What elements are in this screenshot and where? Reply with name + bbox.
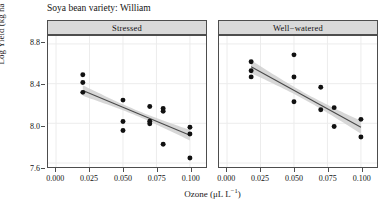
- x-tick-mark: [362, 168, 363, 172]
- x-tick-label-0.075: 0.075: [148, 174, 166, 183]
- x-tick-label-0.000: 0.000: [217, 174, 235, 183]
- x-tick-mark: [328, 168, 329, 172]
- x-tick-mark: [55, 168, 56, 172]
- x-tick-mark: [226, 168, 227, 172]
- x-tick-label-0.100: 0.100: [353, 174, 371, 183]
- x-tick-mark: [191, 168, 192, 172]
- x-tick-label-0.000: 0.000: [46, 174, 64, 183]
- x-tick-mark: [89, 168, 90, 172]
- x-axis-label: Ozone (μL L−1): [47, 189, 378, 199]
- x-tick-mark: [123, 168, 124, 172]
- x-tick-mark: [157, 168, 158, 172]
- x-tick-label-0.075: 0.075: [319, 174, 337, 183]
- x-tick-mark: [294, 168, 295, 172]
- x-tick-label-0.100: 0.100: [182, 174, 200, 183]
- x-tick-mark: [260, 168, 261, 172]
- x-tick-label-0.050: 0.050: [285, 174, 303, 183]
- x-axis-label-text: Ozone (μL L−1): [184, 189, 240, 199]
- x-tick-label-0.025: 0.025: [80, 174, 98, 183]
- x-tick-label-0.025: 0.025: [251, 174, 269, 183]
- chart-root: Soya bean variety: William Log Yield (kg…: [0, 0, 384, 206]
- x-axis-ticks: 0.0000.0250.0500.0750.1000.0000.0250.050…: [0, 0, 384, 206]
- x-tick-label-0.050: 0.050: [114, 174, 132, 183]
